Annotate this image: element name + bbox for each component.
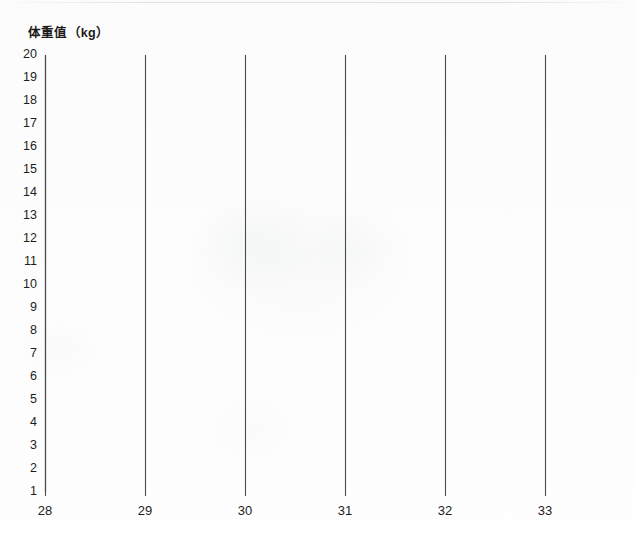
y-axis-tick-label: 3 <box>7 438 37 452</box>
horizontal-gridlines <box>45 56 632 493</box>
x-axis-tick-label: 30 <box>225 503 265 518</box>
y-axis-tick-label: 18 <box>7 93 37 107</box>
vertical-gridlines <box>46 55 546 492</box>
y-axis-tick-label: 17 <box>7 116 37 130</box>
y-axis-tick-label: 2 <box>7 461 37 475</box>
y-axis-tick-label: 6 <box>7 369 37 383</box>
axis-lines <box>45 492 632 496</box>
y-axis-tick-label: 20 <box>7 47 37 61</box>
y-axis-tick-label: 1 <box>7 484 37 498</box>
y-axis-tick-label: 11 <box>7 254 37 268</box>
y-axis-tick-label: 7 <box>7 346 37 360</box>
y-axis-tick-label: 16 <box>7 139 37 153</box>
y-axis-tick-label: 10 <box>7 277 37 291</box>
x-axis-tick-label: 28 <box>25 503 65 518</box>
y-axis-tick-label: 14 <box>7 185 37 199</box>
y-axis-tick-label: 4 <box>7 415 37 429</box>
y-axis-tick-label: 13 <box>7 208 37 222</box>
y-axis-tick-label: 12 <box>7 231 37 245</box>
x-axis-tick-label: 31 <box>325 503 365 518</box>
x-axis-tick-label: 33 <box>525 503 565 518</box>
y-axis-tick-label: 5 <box>7 392 37 406</box>
y-axis-tick-label: 8 <box>7 323 37 337</box>
weight-grid-chart: 体重值（kg） 1234567891011121314151617181920 … <box>0 0 641 537</box>
x-axis-tick-label: 32 <box>425 503 465 518</box>
y-axis-tick-label: 15 <box>7 162 37 176</box>
y-axis-tick-label: 19 <box>7 70 37 84</box>
grid-lines <box>0 0 641 537</box>
y-axis-tick-label: 9 <box>7 300 37 314</box>
x-axis-tick-label: 29 <box>125 503 165 518</box>
